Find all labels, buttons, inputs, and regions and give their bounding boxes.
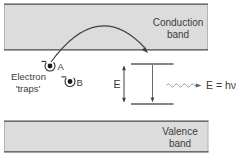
trap-a-electron-dot bbox=[48, 64, 53, 69]
energy-gap-arrowhead-down-icon bbox=[122, 98, 126, 103]
band-diagram: Conduction band Valence band A bbox=[0, 0, 250, 163]
electron-trap-a: A bbox=[42, 61, 65, 72]
band-diagram-canvas: Conduction band Valence band A bbox=[0, 0, 250, 163]
trap-a-label: A bbox=[58, 61, 65, 72]
trap-b-electron-dot bbox=[68, 79, 73, 84]
electron-trap-b: B bbox=[62, 77, 83, 88]
conduction-band: Conduction band bbox=[4, 4, 208, 50]
valence-band: Valence band bbox=[4, 121, 209, 152]
valence-band-label-line2: band bbox=[169, 138, 191, 149]
photon-emission: E = hν bbox=[167, 79, 237, 91]
photon-arrowhead-icon bbox=[196, 83, 202, 87]
photon-wave bbox=[167, 84, 195, 87]
conduction-band-label-line1: Conduction bbox=[153, 17, 204, 28]
photon-equation-label: E = hν bbox=[206, 79, 236, 91]
electron-traps-caption: Electron 'traps' bbox=[11, 71, 46, 94]
energy-gap-label: E bbox=[113, 78, 120, 90]
valence-band-label-line1: Valence bbox=[162, 126, 198, 137]
transition-arrow bbox=[151, 65, 155, 102]
electron-traps-caption-line1: Electron bbox=[11, 71, 46, 82]
transition-arrowhead-icon bbox=[151, 98, 155, 103]
energy-gap-arrow: E bbox=[113, 65, 125, 102]
energy-gap-arrowhead-up-icon bbox=[122, 65, 126, 70]
conduction-band-label-line2: band bbox=[167, 29, 189, 40]
electron-traps-caption-line2: 'traps' bbox=[16, 83, 41, 94]
trap-b-label: B bbox=[77, 77, 83, 88]
